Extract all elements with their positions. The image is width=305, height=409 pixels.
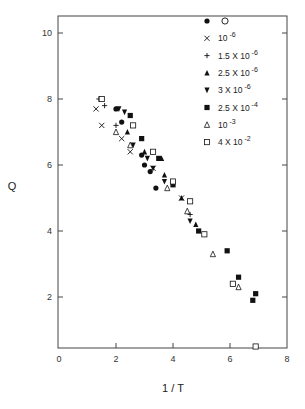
legend-label: 2.5 X 10 -6 bbox=[218, 66, 258, 78]
filled-circle-marker bbox=[119, 120, 124, 125]
filled-triangle-down-marker bbox=[162, 179, 167, 185]
filled-triangle-up-marker bbox=[162, 172, 167, 178]
filled-circle-marker bbox=[153, 186, 158, 191]
open-triangle-up-marker bbox=[204, 122, 209, 128]
filled-square-marker bbox=[236, 275, 241, 280]
filled-triangle-down-marker bbox=[204, 88, 209, 94]
legend-label: 4 X 10 -2 bbox=[218, 135, 251, 147]
filled-square-marker bbox=[225, 248, 230, 253]
open-square-marker bbox=[253, 344, 258, 349]
open-triangle-up-marker bbox=[236, 284, 241, 290]
filled-square-marker bbox=[253, 291, 258, 296]
open-square-marker bbox=[99, 96, 104, 101]
x-tick-label: 0 bbox=[56, 354, 61, 364]
filled-square-marker bbox=[250, 298, 255, 303]
y-tick-label: 10 bbox=[42, 28, 52, 38]
plus-marker bbox=[204, 53, 209, 58]
y-tick-label: 2 bbox=[47, 292, 52, 302]
x-tick-label: 8 bbox=[284, 354, 289, 364]
x-marker bbox=[99, 123, 104, 128]
legend-label: 2.5 X 10 -4 bbox=[218, 101, 258, 113]
legend-label: 1.5 X 10 -6 bbox=[218, 49, 258, 61]
axes: 02468246810 bbox=[42, 28, 290, 364]
filled-triangle-up-marker bbox=[142, 149, 147, 155]
x-tick-label: 4 bbox=[170, 354, 175, 364]
filled-square-marker bbox=[139, 136, 144, 141]
legend-label: 3 X 10 -6 bbox=[218, 83, 251, 95]
y-tick-label: 6 bbox=[47, 160, 52, 170]
open-triangle-up-marker bbox=[185, 208, 190, 214]
open-square-marker bbox=[170, 179, 175, 184]
filled-square-marker bbox=[156, 156, 161, 161]
x-marker bbox=[128, 149, 133, 154]
open-square-marker bbox=[230, 281, 235, 286]
filled-triangle-down-marker bbox=[122, 110, 127, 116]
filled-square-marker bbox=[128, 113, 133, 118]
open-triangle-up-marker bbox=[210, 251, 215, 257]
scatter-chart: 02468246810 10 -61.5 X 10 -62.5 X 10 -63… bbox=[0, 0, 305, 409]
open-triangle-up-marker bbox=[113, 129, 118, 135]
data-points bbox=[93, 96, 258, 349]
filled-triangle-up-marker bbox=[125, 129, 130, 135]
x-tick-label: 2 bbox=[113, 354, 118, 364]
open-square-marker bbox=[204, 140, 209, 145]
legend: 10 -61.5 X 10 -62.5 X 10 -63 X 10 -62.5 … bbox=[204, 18, 258, 147]
open-circle-marker bbox=[222, 18, 228, 24]
legend-label: 10 -6 bbox=[218, 31, 236, 43]
y-axis-label: Q bbox=[8, 180, 17, 192]
filled-square-marker bbox=[204, 105, 209, 110]
filled-triangle-up-marker bbox=[204, 70, 209, 76]
filled-triangle-up-marker bbox=[193, 221, 198, 227]
legend-label: 10 -3 bbox=[218, 118, 236, 130]
open-square-marker bbox=[131, 123, 136, 128]
y-tick-label: 4 bbox=[47, 226, 52, 236]
filled-triangle-down-marker bbox=[188, 219, 193, 225]
x-axis-label: 1 / T bbox=[162, 382, 184, 394]
filled-circle-marker bbox=[204, 18, 209, 23]
plus-marker bbox=[102, 103, 107, 108]
open-triangle-up-marker bbox=[165, 185, 170, 191]
open-square-marker bbox=[150, 149, 155, 154]
x-marker bbox=[204, 36, 209, 41]
open-square-marker bbox=[202, 232, 207, 237]
y-tick-label: 8 bbox=[47, 94, 52, 104]
filled-circle-marker bbox=[142, 162, 147, 167]
plus-marker bbox=[113, 123, 118, 128]
open-square-marker bbox=[188, 199, 193, 204]
x-tick-label: 6 bbox=[227, 354, 232, 364]
filled-square-marker bbox=[196, 228, 201, 233]
filled-triangle-down-marker bbox=[145, 156, 150, 162]
x-marker bbox=[93, 106, 98, 111]
x-marker bbox=[119, 136, 124, 141]
